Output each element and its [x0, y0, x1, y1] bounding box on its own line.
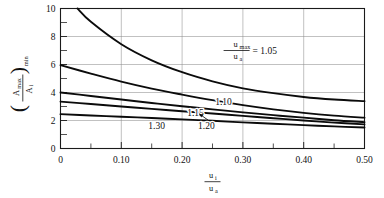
y-axis-outer-subscript: min — [22, 56, 29, 66]
x-tick-label: 0.40 — [295, 155, 312, 165]
y-tick-label: 4 — [51, 88, 56, 98]
y-axis-numerator-subscript: max — [15, 77, 22, 89]
axis-labels-layer: uiua(AmaxAi)min — [5, 56, 220, 193]
tick-labels-layer: 024681000.100.200.300.400.50 — [46, 4, 373, 165]
legend-denominator-subscript: a — [240, 55, 243, 62]
legend-denominator: u — [234, 52, 239, 61]
curve-label-1.10-text: 1.10 — [215, 97, 232, 107]
y-tick-label: 6 — [51, 60, 56, 70]
legend-equals-value: = 1.05 — [253, 46, 278, 56]
y-axis-numerator: A — [12, 90, 21, 96]
y-tick-label: 2 — [51, 116, 56, 126]
x-axis-denominator-subscript: a — [215, 187, 218, 194]
line-chart: 1.101.101.151.151.201.201.301.30umaxua= … — [0, 0, 384, 198]
curves-layer — [61, 9, 365, 128]
y-tick-label: 8 — [51, 32, 56, 42]
y-tick-label: 0 — [51, 144, 56, 154]
x-axis-denominator: u — [209, 184, 214, 193]
x-axis-label: uiua — [205, 171, 221, 194]
y-axis-label: (AmaxAi)min — [5, 56, 34, 112]
x-tick-label: 0.50 — [356, 155, 373, 165]
y-axis-denominator-subscript: i — [27, 84, 34, 86]
curve-1.15 — [61, 93, 365, 123]
x-tick-label: 0 — [58, 155, 63, 165]
curve-label-1.20-text: 1.20 — [198, 121, 215, 131]
x-axis-numerator: u — [209, 171, 214, 180]
curve-label-1.30: 1.301.30 — [148, 121, 165, 131]
curve-label-1.20: 1.201.20 — [198, 121, 215, 131]
curve-1.05 — [78, 9, 365, 102]
y-axis-left-paren: ( — [5, 105, 30, 112]
x-tick-label: 0.30 — [235, 155, 252, 165]
x-tick-label: 0.20 — [174, 155, 191, 165]
legend-numerator-subscript: max — [240, 43, 252, 50]
x-tick-label: 0.10 — [113, 155, 130, 165]
legend-ratio-key: umaxua= 1.05 — [224, 40, 278, 62]
figure-container: 1.101.101.151.151.201.201.301.30umaxua= … — [0, 0, 384, 198]
curve-label-1.10: 1.101.10 — [215, 97, 232, 107]
y-axis-denominator: A — [25, 87, 34, 93]
y-tick-label: 10 — [46, 4, 56, 14]
y-axis-right-paren: ) — [5, 67, 30, 74]
legend-numerator: u — [234, 40, 239, 49]
x-axis-numerator-subscript: i — [215, 174, 217, 181]
curve-label-1.30-text: 1.30 — [148, 121, 165, 131]
